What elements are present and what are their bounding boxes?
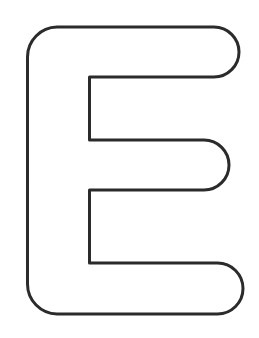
letter-e-path [27,27,243,314]
letter-e-outline-canvas: E [0,0,259,338]
letter-e-outline-icon [0,0,259,338]
